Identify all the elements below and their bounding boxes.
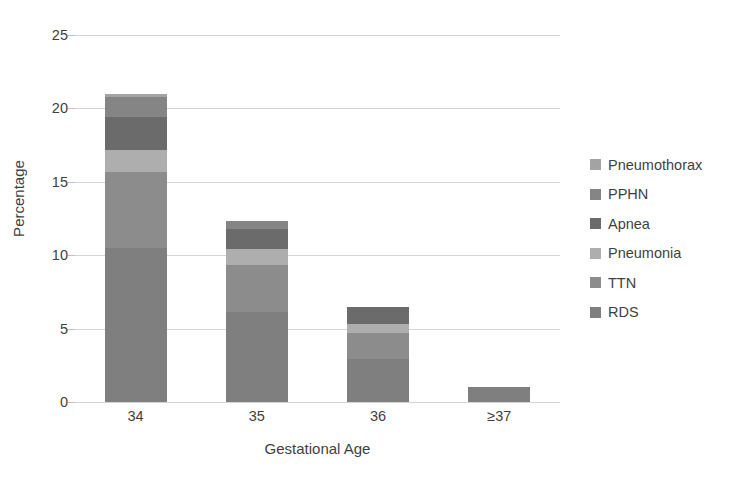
bar-stack[interactable]	[347, 307, 409, 402]
x-axis-title: Gestational Age	[75, 440, 560, 457]
y-tick-label: 0	[28, 394, 68, 410]
bar-segment[interactable]	[105, 97, 167, 118]
bar-segment[interactable]	[105, 172, 167, 248]
gridline	[75, 35, 560, 36]
y-tick-label: 15	[28, 174, 68, 190]
bar-stack[interactable]	[105, 94, 167, 402]
y-tick-label: 20	[28, 100, 68, 116]
y-tick-label: 10	[28, 247, 68, 263]
bar-stack[interactable]	[226, 221, 288, 402]
bar-segment[interactable]	[468, 387, 530, 402]
x-tick-label: 34	[75, 408, 196, 424]
legend-item[interactable]: Pneumonia	[590, 239, 736, 269]
gridline	[75, 402, 560, 403]
legend-item[interactable]: RDS	[590, 298, 736, 328]
y-axis-title: Percentage	[10, 119, 27, 279]
bar-segment[interactable]	[226, 249, 288, 265]
bar-segment[interactable]	[105, 117, 167, 149]
x-tick-label: ≥37	[439, 408, 560, 424]
legend-swatch-icon	[590, 159, 601, 170]
legend-label: PPHN	[608, 186, 648, 202]
bar-segment[interactable]	[347, 324, 409, 333]
stacked-bar-chart: 0510152025 343536≥37 Gestational Age Per…	[0, 0, 736, 479]
legend-swatch-icon	[590, 277, 601, 288]
bar-stack[interactable]	[468, 387, 530, 402]
legend-item[interactable]: TTN	[590, 268, 736, 298]
bar-segment[interactable]	[226, 221, 288, 228]
chart-legend: PneumothoraxPPHNApneaPneumoniaTTNRDS	[590, 150, 736, 327]
legend-item[interactable]: PPHN	[590, 180, 736, 210]
bar-segment[interactable]	[347, 359, 409, 402]
bar-segment[interactable]	[226, 265, 288, 312]
bar-segment[interactable]	[347, 307, 409, 325]
legend-label: Pneumothorax	[608, 157, 702, 173]
bar-segment[interactable]	[226, 229, 288, 250]
bar-segment[interactable]	[226, 312, 288, 402]
bar-segment[interactable]	[105, 150, 167, 172]
bar-segment[interactable]	[347, 333, 409, 359]
legend-swatch-icon	[590, 189, 601, 200]
legend-label: Pneumonia	[608, 245, 681, 261]
x-tick-label: 35	[196, 408, 317, 424]
legend-item[interactable]: Pneumothorax	[590, 150, 736, 180]
x-tick-label: 36	[318, 408, 439, 424]
y-tick-label: 25	[28, 27, 68, 43]
bar-segment[interactable]	[105, 248, 167, 402]
legend-label: Apnea	[608, 216, 650, 232]
legend-label: RDS	[608, 304, 639, 320]
legend-item[interactable]: Apnea	[590, 209, 736, 239]
legend-swatch-icon	[590, 248, 601, 259]
plot-area	[75, 35, 560, 402]
legend-swatch-icon	[590, 218, 601, 229]
legend-label: TTN	[608, 275, 636, 291]
legend-swatch-icon	[590, 307, 601, 318]
y-tick-label: 5	[28, 321, 68, 337]
